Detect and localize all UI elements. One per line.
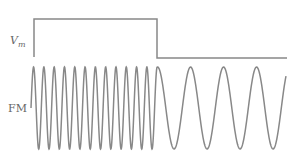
modulating-square-wave — [34, 19, 287, 58]
fm-carrier-wave — [31, 67, 286, 149]
vm-label: Vm — [10, 34, 26, 49]
fm-modulation-diagram — [0, 0, 299, 166]
fm-label: FM — [8, 102, 27, 115]
